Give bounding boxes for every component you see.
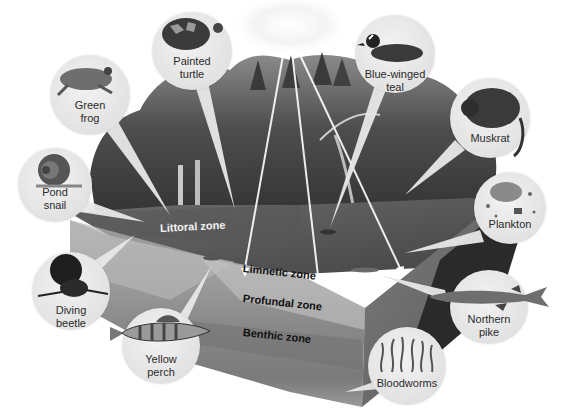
muskrat-icon xyxy=(450,78,530,158)
callout-label-line2: turtle xyxy=(152,68,232,81)
callout-label-line1: Muskrat xyxy=(450,132,530,145)
callout-label-line2: frog xyxy=(50,112,130,125)
callout-label-line2: snail xyxy=(18,199,92,212)
callout-diving-beetle: Diving beetle xyxy=(32,252,110,330)
callout-green-frog: Green frog xyxy=(50,55,130,135)
callout-label-line2: perch xyxy=(122,366,200,379)
plankton-icon xyxy=(474,172,546,244)
pond-ecosystem-diagram: Littoral zone Limnetic zone Profundal zo… xyxy=(0,0,567,415)
callout-label-line2: teal xyxy=(355,81,435,94)
callout-label-line2: beetle xyxy=(32,317,110,330)
callout-label-line2: pike xyxy=(450,326,528,339)
callout-label-line1: Green xyxy=(50,99,130,112)
callout-label-line1: Plankton xyxy=(474,218,546,231)
callout-bloodworms: Bloodworms xyxy=(368,327,446,405)
callout-blue-winged-teal: Blue-winged teal xyxy=(355,15,435,93)
callout-label-line1: Pond xyxy=(18,186,92,199)
perch-icon xyxy=(106,313,216,353)
callout-plankton: Plankton xyxy=(474,172,546,244)
callout-label-line1: Yellow xyxy=(122,353,200,366)
bloodworms-icon xyxy=(368,327,446,405)
callout-label-line1: Blue-winged xyxy=(355,68,435,81)
pike-icon xyxy=(425,283,555,313)
callout-pond-snail: Pond snail xyxy=(18,148,92,222)
callout-painted-turtle: Painted turtle xyxy=(152,12,232,90)
callout-label-line1: Painted xyxy=(152,55,232,68)
callout-label-line1: Northern xyxy=(450,313,528,326)
callout-label-line1: Bloodworms xyxy=(368,377,446,390)
callout-muskrat: Muskrat xyxy=(450,78,530,158)
callout-label-line1: Diving xyxy=(32,304,110,317)
